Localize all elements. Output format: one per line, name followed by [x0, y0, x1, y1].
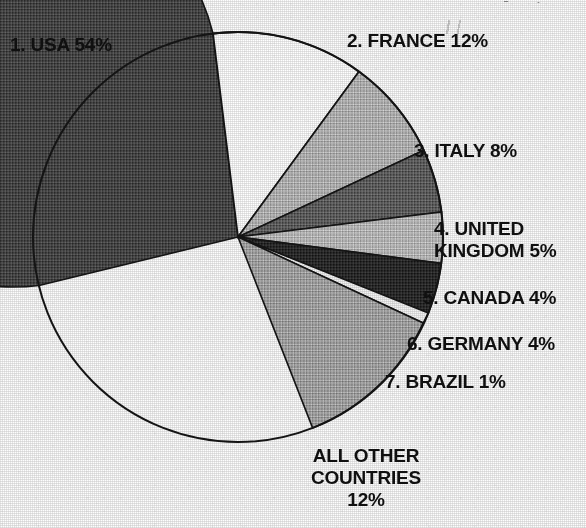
slice-label-canada: 5. CANADA 4%	[423, 287, 556, 309]
slice-label-all-other-countries-line3: 12%	[281, 489, 451, 511]
slice-label-italy: 3. ITALY 8%	[414, 140, 517, 162]
slice-label-france: 2. FRANCE 12%	[347, 30, 488, 52]
pie-chart-page: 1. USA 54% 2. FRANCE 12% 3. ITALY 8% 4. …	[0, 0, 586, 528]
slice-label-usa: 1. USA 54%	[10, 34, 112, 56]
slice-label-all-other-countries-line1: ALL OTHER	[281, 445, 451, 467]
slice-label-united-kingdom: 4. UNITED KINGDOM 5%	[434, 218, 557, 262]
slice-label-all-other-countries: ALL OTHER COUNTRIES 12%	[281, 445, 451, 511]
slice-label-brazil: 7. BRAZIL 1%	[385, 371, 506, 393]
slice-label-all-other-countries-line2: COUNTRIES	[281, 467, 451, 489]
page-edge-artifact	[498, 0, 544, 5]
slice-label-germany: 6. GERMANY 4%	[407, 333, 555, 355]
slice-label-united-kingdom-line1: 4. UNITED	[434, 218, 557, 240]
slice-label-united-kingdom-line2: KINGDOM 5%	[434, 240, 557, 262]
